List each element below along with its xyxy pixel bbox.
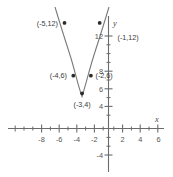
x-tick-label-neg4: -4	[74, 135, 81, 144]
x-tick-label-neg2: -2	[91, 135, 98, 144]
x-tick-label-pos4: 4	[138, 135, 142, 144]
x-tick-label-neg6: -6	[56, 135, 63, 144]
point-label-neg5-12: (-5,12)	[37, 19, 58, 28]
point-label-neg4-6: (-4,6)	[50, 71, 67, 80]
y-tick-label-6: 6	[99, 85, 103, 94]
data-point	[80, 91, 84, 95]
point-label-neg3-4: (-3,4)	[74, 100, 91, 109]
parabola-curve	[55, 7, 109, 97]
x-tick-label-pos6: 6	[157, 135, 161, 144]
data-point	[71, 74, 75, 78]
y-tick-label-4: 4	[99, 102, 103, 111]
x-tick-label-neg8: -8	[38, 135, 45, 144]
graph-screenshot: y x -8 -6 -4 -2 2 4 6 12 8 6 4 -4 (-5,12…	[0, 0, 173, 177]
x-axis-label: x	[154, 115, 159, 124]
point-label-neg2-6: (-2,6)	[96, 71, 113, 80]
data-point	[98, 21, 102, 25]
coordinate-plane: y x -8 -6 -4 -2 2 4 6 12 8 6 4 -4 (-5,12…	[0, 0, 173, 177]
y-axis-label: y	[112, 19, 117, 28]
y-tick-label-12: 12	[95, 32, 103, 41]
point-label-neg1-12: (-1,12)	[118, 33, 139, 42]
data-point	[89, 74, 93, 78]
x-tick-label-pos2: 2	[121, 135, 125, 144]
y-tick-label-neg4: -4	[96, 151, 103, 160]
data-point	[63, 21, 67, 25]
